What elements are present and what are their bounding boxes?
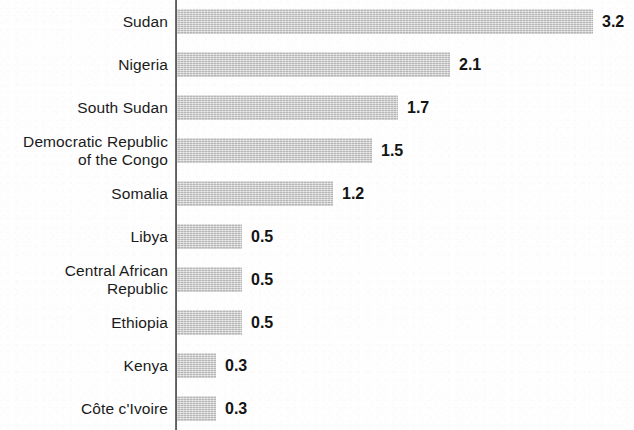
category-label: Sudan bbox=[0, 13, 168, 31]
bar-row: Kenya0.3 bbox=[0, 344, 634, 387]
bar-value-label: 3.2 bbox=[602, 9, 624, 34]
bar bbox=[177, 9, 593, 34]
bar bbox=[177, 95, 398, 120]
bar-and-value: 1.7 bbox=[177, 95, 429, 120]
bar-and-value: 0.3 bbox=[177, 353, 247, 378]
bar-value-label: 1.5 bbox=[381, 138, 403, 163]
bar bbox=[177, 353, 216, 378]
bar-and-value: 1.5 bbox=[177, 138, 403, 163]
bar-and-value: 0.5 bbox=[177, 310, 273, 335]
bar bbox=[177, 52, 450, 77]
bar bbox=[177, 396, 216, 421]
bar-value-label: 0.5 bbox=[251, 224, 273, 249]
bar-value-label: 0.3 bbox=[225, 396, 247, 421]
bar-row: Central African Republic0.5 bbox=[0, 258, 634, 301]
bar-and-value: 0.5 bbox=[177, 267, 273, 292]
bar-row: Ethiopia0.5 bbox=[0, 301, 634, 344]
bar-value-label: 0.5 bbox=[251, 267, 273, 292]
bar-row: Côte c'Ivoire0.3 bbox=[0, 387, 634, 430]
category-label: Democratic Republic of the Congo bbox=[0, 133, 168, 169]
bar-and-value: 2.1 bbox=[177, 52, 481, 77]
bar-row: South Sudan1.7 bbox=[0, 86, 634, 129]
bar-and-value: 3.2 bbox=[177, 9, 624, 34]
bar bbox=[177, 138, 372, 163]
bar-and-value: 0.3 bbox=[177, 396, 247, 421]
bar-row: Nigeria2.1 bbox=[0, 43, 634, 86]
category-label: Ethiopia bbox=[0, 314, 168, 332]
bar bbox=[177, 267, 242, 292]
bar bbox=[177, 310, 242, 335]
horizontal-bar-chart: Sudan3.2Nigeria2.1South Sudan1.7Democrat… bbox=[0, 0, 634, 430]
bar-value-label: 0.3 bbox=[225, 353, 247, 378]
category-label: Kenya bbox=[0, 357, 168, 375]
bar-row: Democratic Republic of the Congo1.5 bbox=[0, 129, 634, 172]
bar-row: Sudan3.2 bbox=[0, 0, 634, 43]
bar-and-value: 0.5 bbox=[177, 224, 273, 249]
bar-row: Libya0.5 bbox=[0, 215, 634, 258]
bar-row: Somalia1.2 bbox=[0, 172, 634, 215]
bar-value-label: 1.7 bbox=[407, 95, 429, 120]
bar bbox=[177, 224, 242, 249]
category-label: Nigeria bbox=[0, 56, 168, 74]
category-label: South Sudan bbox=[0, 99, 168, 117]
bar-value-label: 1.2 bbox=[342, 181, 364, 206]
category-label: Central African Republic bbox=[0, 262, 168, 298]
bar-and-value: 1.2 bbox=[177, 181, 364, 206]
bar-value-label: 2.1 bbox=[459, 52, 481, 77]
category-label: Côte c'Ivoire bbox=[0, 400, 168, 418]
bar bbox=[177, 181, 333, 206]
bar-value-label: 0.5 bbox=[251, 310, 273, 335]
category-label: Somalia bbox=[0, 185, 168, 203]
category-label: Libya bbox=[0, 228, 168, 246]
